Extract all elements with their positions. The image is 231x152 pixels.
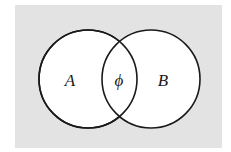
intersection-label: ϕ	[115, 71, 124, 90]
venn-diagram: A ϕ B	[0, 0, 231, 152]
set-a-label: A	[64, 71, 76, 90]
set-b-label: B	[158, 71, 169, 90]
